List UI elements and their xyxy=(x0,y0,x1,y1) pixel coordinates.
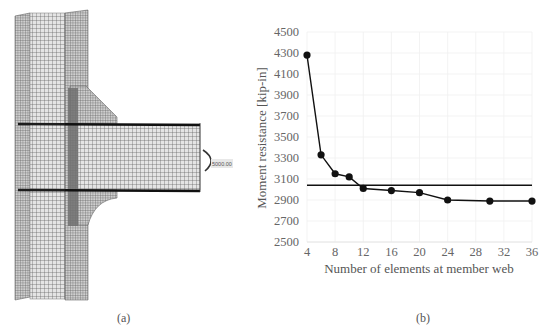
y-tick-label: 3300 xyxy=(274,151,299,165)
data-point xyxy=(528,197,535,204)
y-tick-label: 2500 xyxy=(274,235,299,249)
column-web xyxy=(30,13,65,299)
data-point xyxy=(388,187,395,194)
column-stiffener-dense xyxy=(68,88,78,226)
y-tick-label: 3100 xyxy=(274,172,299,186)
x-tick-label: 28 xyxy=(470,245,483,259)
x-tick-label: 4 xyxy=(304,245,311,259)
data-point xyxy=(416,189,423,196)
bottom-haunch xyxy=(78,190,117,225)
caption-b: (b) xyxy=(416,311,430,326)
y-tick-label: 3500 xyxy=(274,130,299,144)
column-left-flange xyxy=(15,13,30,300)
x-tick-label: 24 xyxy=(441,245,454,259)
x-axis-label: Number of elements at member web xyxy=(324,261,514,276)
data-point xyxy=(346,173,353,180)
y-tick-label: 3900 xyxy=(274,88,299,102)
panel-b-chart: 2500270029003100330035003700390041004300… xyxy=(250,0,551,336)
moment-convergence-chart: 2500270029003100330035003700390041004300… xyxy=(250,0,551,336)
x-axis-ticks: 4812162024283236 xyxy=(304,245,538,259)
moment-arrow-icon xyxy=(203,150,211,171)
y-tick-label: 4100 xyxy=(274,67,299,81)
x-tick-label: 8 xyxy=(332,245,338,259)
x-tick-label: 36 xyxy=(526,245,539,259)
x-tick-label: 12 xyxy=(357,245,370,259)
beam-web xyxy=(78,124,200,190)
y-tick-label: 3700 xyxy=(274,109,299,123)
moment-label: 5000.00 xyxy=(212,161,232,167)
data-point xyxy=(444,196,451,203)
panel-a-mesh: 5000.00 (a) xyxy=(0,0,250,336)
y-tick-label: 4500 xyxy=(274,25,299,39)
x-tick-label: 16 xyxy=(385,245,398,259)
y-tick-label: 4300 xyxy=(274,46,299,60)
y-tick-label: 2700 xyxy=(274,214,299,228)
caption-a: (a) xyxy=(117,311,130,326)
grid-lines xyxy=(307,32,532,242)
x-tick-label: 32 xyxy=(498,245,511,259)
x-tick-label: 20 xyxy=(413,245,426,259)
data-point xyxy=(486,197,493,204)
data-point xyxy=(332,170,339,177)
data-point xyxy=(317,151,324,158)
y-axis-label: Moment resistance [kip-in] xyxy=(254,67,269,209)
y-axis-ticks: 2500270029003100330035003700390041004300… xyxy=(274,25,299,249)
fe-mesh-figure: 5000.00 xyxy=(0,0,250,336)
data-point xyxy=(303,52,310,59)
y-tick-label: 2900 xyxy=(274,193,299,207)
